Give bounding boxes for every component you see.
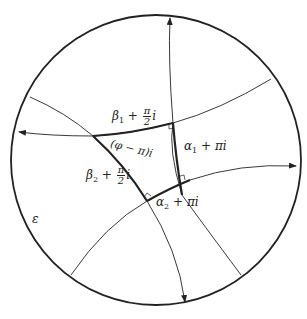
label-alpha1: α1 + πi <box>184 140 227 155</box>
right-angle-mark <box>180 175 185 180</box>
diagram: β1 + π2i (φ − π)i α1 + πi β2 + π2i α2 + … <box>0 0 307 319</box>
label-boundary: ε <box>32 213 38 225</box>
label-alpha2: α2 + πi <box>156 196 199 211</box>
label-beta1: β1 + π2i <box>112 106 156 127</box>
label-beta2: β2 + π2i <box>86 165 130 186</box>
diagram-svg <box>0 0 307 319</box>
boundary-circle <box>11 15 301 305</box>
